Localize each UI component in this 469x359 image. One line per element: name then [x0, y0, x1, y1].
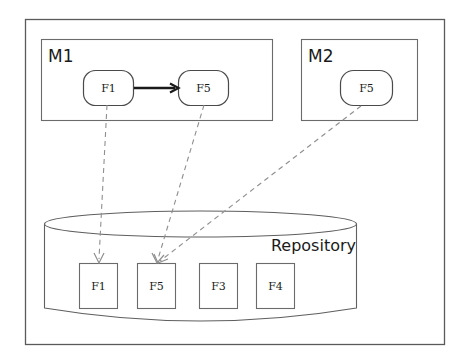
module-box-m1[interactable] — [42, 40, 273, 121]
module-label-m1: M1 — [48, 46, 73, 66]
node-label-m2-f5: F5 — [359, 82, 374, 95]
repository-label: Repository — [271, 236, 356, 255]
diagram-svg: M1 F1 F5 M2 F5 Repository F1 F5 F3 — [0, 0, 469, 359]
node-label-m1-f5: F5 — [196, 82, 211, 95]
node-label-m1-f1: F1 — [101, 82, 116, 95]
repo-item-label-f5: F5 — [149, 280, 164, 293]
diagram-canvas: M1 F1 F5 M2 F5 Repository F1 F5 F3 — [0, 0, 469, 359]
repo-item-label-f1: F1 — [91, 280, 106, 293]
repository-cylinder-top — [45, 211, 357, 237]
repo-item-label-f3: F3 — [211, 280, 226, 293]
module-label-m2: M2 — [308, 46, 333, 66]
repo-item-label-f4: F4 — [268, 280, 283, 293]
